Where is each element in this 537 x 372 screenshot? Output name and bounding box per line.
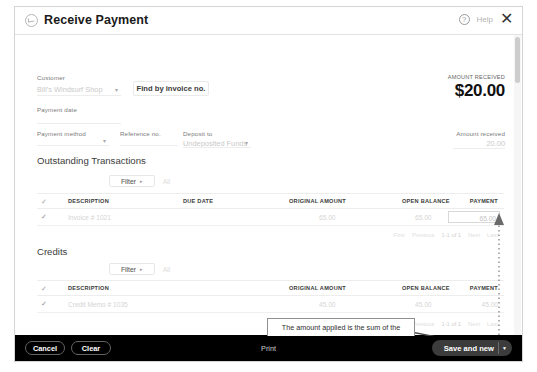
pager-next[interactable]: Next: [468, 321, 480, 327]
amount-received-value: $20.00: [455, 81, 505, 101]
close-icon[interactable]: ✕: [500, 13, 513, 25]
cell-original-amount: 65.00: [319, 214, 336, 221]
modal-header: Receive Payment ? Help ✕: [15, 7, 522, 35]
outstanding-filter-button[interactable]: Filter ▸: [109, 175, 155, 187]
receive-payment-modal: Receive Payment ? Help ✕ Customer Bill's…: [14, 6, 523, 362]
page-title: Receive Payment: [44, 13, 148, 27]
outstanding-pagination[interactable]: First Previous 1-1 of 1 Next Last: [394, 232, 498, 238]
reference-no-underline[interactable]: [120, 145, 178, 146]
outstanding-select-all-checkbox[interactable]: ✓: [41, 198, 48, 205]
amount-received-label: AMOUNT RECEIVED: [448, 74, 505, 80]
save-button-divider: [498, 342, 499, 354]
cancel-button[interactable]: Cancel: [25, 341, 65, 355]
header-actions: ? Help ✕: [459, 13, 513, 25]
help-label[interactable]: Help: [477, 15, 493, 24]
credits-filter-label: Filter: [121, 266, 136, 273]
col-open-balance: OPEN BALANCE: [402, 198, 450, 204]
payment-method-chevron-down-icon[interactable]: ▾: [103, 137, 106, 144]
pager-last[interactable]: Last: [487, 321, 498, 327]
credits-filter-button[interactable]: Filter ▸: [109, 263, 155, 275]
credits-title: Credits: [37, 246, 67, 257]
cell-open-balance: 45.00: [415, 301, 432, 308]
deposit-to-underline: [183, 147, 251, 148]
row-checkbox[interactable]: ✓: [41, 213, 48, 220]
col-description: DESCRIPTION: [68, 285, 109, 291]
pager-first[interactable]: First: [394, 232, 405, 238]
payment-input-value: 65.00: [479, 215, 496, 222]
pager-last[interactable]: Last: [487, 232, 498, 238]
amount-received-field-label: Amount received: [456, 130, 505, 137]
payment-method-underline[interactable]: [37, 145, 109, 146]
annotation-callout: The amount applied is the sum of the pay…: [267, 318, 415, 336]
deposit-to-label: Deposit to: [183, 130, 212, 137]
col-payment: PAYMENT: [470, 198, 498, 204]
vertical-scrollbar-track[interactable]: [514, 35, 521, 336]
pager-current: 1-1 of 1: [441, 321, 461, 327]
customer-label: Customer: [37, 74, 65, 81]
table-row[interactable]: ✓ Credit Memo # 1035 45.00 45.00 45.00: [37, 296, 504, 313]
credits-table-header: ✓ DESCRIPTION ORIGINAL AMOUNT OPEN BALAN…: [37, 280, 504, 296]
clock-history-icon: [25, 14, 38, 27]
pager-previous[interactable]: Previous: [412, 321, 435, 327]
credits-filter-all[interactable]: All: [163, 266, 170, 273]
outstanding-title: Outstanding Transactions: [37, 155, 146, 166]
deposit-to-chevron-down-icon[interactable]: ▾: [245, 139, 248, 146]
col-open-balance: OPEN BALANCE: [402, 285, 450, 291]
amount-received-field-value[interactable]: 20.00: [487, 139, 506, 148]
chevron-right-icon: ▸: [140, 178, 143, 184]
payment-method-label: Payment method: [37, 130, 86, 137]
cell-payment: 45.00: [481, 301, 498, 308]
help-icon[interactable]: ?: [459, 14, 470, 25]
chevron-down-icon[interactable]: ▼: [502, 345, 507, 351]
save-and-new-label: Save and new: [444, 344, 494, 353]
customer-chevron-down-icon[interactable]: ▾: [115, 86, 118, 93]
col-payment: PAYMENT: [470, 285, 498, 291]
cell-description: Credit Memo # 1035: [68, 301, 128, 308]
outstanding-filter-all[interactable]: All: [163, 178, 170, 185]
save-and-new-button[interactable]: Save and new ▼: [432, 340, 512, 356]
amount-received-field-underline: [453, 148, 505, 149]
modal-title-group: Receive Payment: [25, 13, 148, 27]
credits-select-all-checkbox[interactable]: ✓: [41, 285, 48, 292]
cell-open-balance: 65.00: [415, 214, 432, 221]
vertical-scrollbar-thumb[interactable]: [515, 37, 520, 83]
print-button[interactable]: Print: [261, 344, 276, 353]
customer-value[interactable]: Bill's Windsurf Shop: [37, 85, 103, 94]
pager-next[interactable]: Next: [468, 232, 480, 238]
table-row[interactable]: ✓ Invoice # 1021 65.00 65.00 65.00: [37, 209, 504, 226]
col-due-date: DUE DATE: [183, 198, 213, 204]
cell-original-amount: 45.00: [319, 301, 336, 308]
payment-date-label: Payment date: [37, 106, 77, 113]
pager-current: 1-1 of 1: [441, 232, 461, 238]
col-original-amount: ORIGINAL AMOUNT: [289, 198, 346, 204]
pager-previous[interactable]: Previous: [412, 232, 435, 238]
outstanding-filter-label: Filter: [121, 178, 136, 185]
payment-date-underline[interactable]: [37, 123, 121, 124]
screen-root: Receive Payment ? Help ✕ Customer Bill's…: [0, 0, 537, 372]
modal-footer: Cancel Clear Print Save and new ▼: [15, 335, 522, 361]
chevron-right-icon: ▸: [140, 266, 143, 272]
find-by-invoice-button[interactable]: Find by invoice no.: [133, 81, 209, 96]
row-checkbox[interactable]: ✓: [41, 300, 48, 307]
outstanding-table-header: ✓ DESCRIPTION DUE DATE ORIGINAL AMOUNT O…: [37, 193, 504, 209]
col-description: DESCRIPTION: [68, 198, 109, 204]
cell-description: Invoice # 1021: [68, 214, 111, 221]
reference-no-label: Reference no.: [120, 130, 161, 137]
customer-underline: [37, 95, 121, 96]
col-original-amount: ORIGINAL AMOUNT: [289, 285, 346, 291]
payment-input[interactable]: 65.00: [448, 211, 500, 223]
clear-button[interactable]: Clear: [71, 341, 111, 355]
modal-body: Customer Bill's Windsurf Shop ▾ Find by …: [15, 35, 522, 336]
